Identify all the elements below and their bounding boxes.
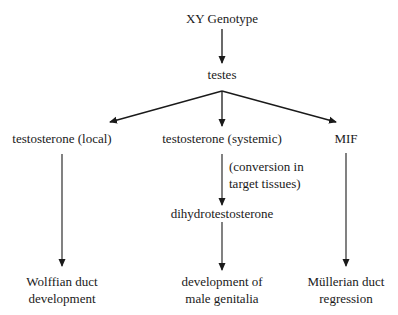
node-mullerian-line2: regression: [308, 290, 385, 307]
arrow-testes-to-mif: [222, 91, 336, 122]
node-testosterone-systemic: testosterone (systemic): [162, 131, 282, 147]
edge-label-conversion-line2: target tissues): [229, 175, 304, 192]
node-xy-genotype: XY Genotype: [186, 11, 258, 27]
edge-label-conversion-line1: (conversion in: [229, 158, 304, 175]
node-dihydrotestosterone: dihydrotestosterone: [171, 206, 274, 222]
arrow-testes-to-testosterone-local: [110, 91, 222, 122]
node-genitalia-line1: development of: [181, 273, 262, 290]
node-mif: MIF: [334, 131, 357, 147]
node-wolffian-line1: Wolffian duct: [26, 273, 97, 290]
node-mullerian-duct-regression: Müllerian duct regression: [308, 273, 385, 307]
node-testosterone-local: testosterone (local): [12, 131, 111, 147]
diagram-connectors: [0, 0, 398, 315]
node-testes: testes: [208, 67, 237, 83]
node-development-of-male-genitalia: development of male genitalia: [181, 273, 262, 307]
node-wolffian-duct-development: Wolffian duct development: [26, 273, 97, 307]
node-genitalia-line2: male genitalia: [181, 290, 262, 307]
node-mullerian-line1: Müllerian duct: [308, 273, 385, 290]
edge-label-conversion: (conversion in target tissues): [229, 158, 304, 192]
node-wolffian-line2: development: [26, 290, 97, 307]
